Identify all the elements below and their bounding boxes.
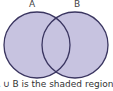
venn-diagram [0, 0, 113, 91]
caption: A ∪ B is the shaded region [0, 80, 113, 89]
